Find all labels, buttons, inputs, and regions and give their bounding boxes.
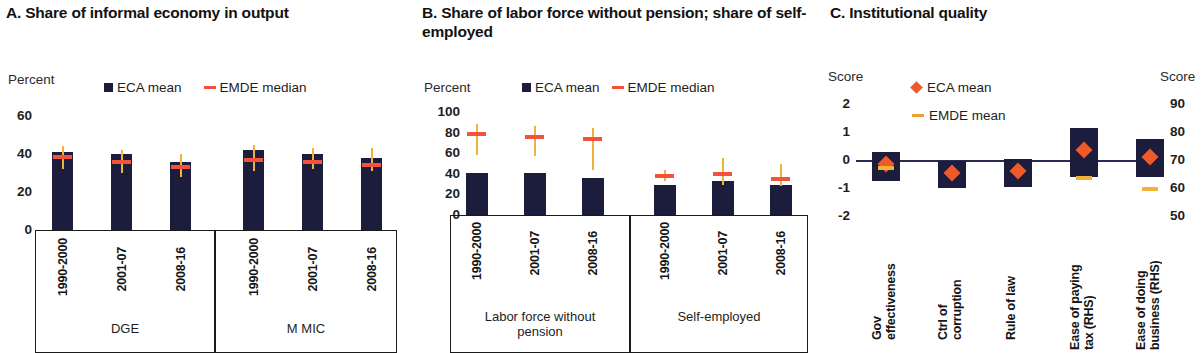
panel-a-ytick-60: 60 (0, 108, 32, 123)
panel-b-group-label-1: Labor force without pension (452, 310, 628, 340)
panel-c-ytick-left-0: 0 (820, 152, 850, 167)
panel-b-ytick-40: 40 (414, 166, 460, 181)
legend-item-eca-mean: ECA mean (912, 80, 1006, 95)
legend-label-eca-mean: ECA mean (927, 80, 992, 95)
panel-a-axis-unit: Percent (8, 72, 55, 87)
panel-c-ytick-right-80: 80 (1170, 124, 1204, 139)
bar-b-1 (466, 173, 488, 215)
panel-a-ytick-0: 0 (0, 222, 32, 237)
median-b-1 (467, 132, 486, 136)
panel-b-ytick-80: 80 (414, 125, 460, 140)
panel-c-ytick-left-neg1: -1 (820, 180, 850, 195)
whisker-a-6 (371, 148, 373, 171)
bar-b-5 (712, 181, 734, 215)
median-a-1 (53, 155, 72, 159)
panel-c-ytick-left-2: 2 (820, 96, 850, 111)
panel-c: C. Institutional quality Score Score ECA… (820, 0, 1204, 353)
median-b-5 (713, 172, 732, 176)
panel-b-ytick-20: 20 (414, 186, 460, 201)
panel-a-xtick-6: 2008-16 (365, 247, 379, 291)
panel-b-group-label-2: Self-employed (631, 310, 807, 325)
median-b-4 (655, 174, 674, 178)
panel-c-legend: ECA mean EMDE mean (912, 80, 1006, 123)
diamond-marker-icon (910, 81, 923, 94)
dash-marker-icon (612, 86, 624, 89)
panel-a-xtick-4: 1990-2000 (247, 238, 261, 296)
panel-c-ytick-right-50: 50 (1170, 208, 1204, 223)
panel-b-ytick-100: 100 (414, 104, 460, 119)
panel-b-ytick-60: 60 (414, 145, 460, 160)
panel-c-axis-unit-left: Score (828, 69, 863, 84)
whisker-b-2 (534, 126, 536, 156)
panel-a-xtick-1: 1990-2000 (56, 238, 70, 296)
legend-item-emde-median: EMDE median (612, 80, 715, 95)
whisker-b-6 (780, 164, 782, 187)
panel-b-xtick-3: 2008-16 (586, 231, 600, 275)
panel-a: A. Share of informal economy in output P… (0, 0, 400, 353)
panel-a-xtick-3: 2008-16 (174, 247, 188, 291)
panel-b-xtick-4: 1990-2000 (658, 222, 672, 280)
legend-label-eca-mean: ECA mean (535, 80, 600, 95)
panel-c-xtick-3: Rule of law (1004, 230, 1018, 340)
dash-marker-icon (912, 114, 924, 117)
median-b-6 (771, 177, 790, 181)
panel-c-ytick-right-60: 60 (1170, 180, 1204, 195)
bar-b-2 (524, 173, 546, 215)
panel-c-title: C. Institutional quality (830, 4, 1200, 23)
panel-c-ytick-right-90: 90 (1170, 96, 1204, 111)
panel-a-group-label-1: DGE (36, 322, 214, 337)
panel-a-ytick-40: 40 (0, 146, 32, 161)
panel-c-xtick-5: Ease of doing business (RHS) (1134, 230, 1162, 350)
legend-item-eca-mean: ECA mean (522, 80, 600, 95)
panel-a-xtick-5: 2001-07 (306, 247, 320, 291)
panel-c-xtick-2: Ctrl of corruption (936, 230, 964, 340)
median-a-2 (112, 160, 131, 164)
panel-b-xtick-2: 2001-07 (528, 231, 542, 275)
legend-label-emde-median: EMDE median (628, 80, 715, 95)
panel-a-xtick-2: 2001-07 (115, 247, 129, 291)
legend-label-emde-mean: EMDE mean (929, 108, 1006, 123)
legend-item-emde-median: EMDE median (204, 80, 307, 95)
panel-b-group-divider (629, 215, 631, 353)
panel-b-xtick-1: 1990-2000 (470, 222, 484, 280)
panel-b-title: B. Share of labor force without pension;… (422, 4, 822, 42)
panel-a-group-label-2: M MIC (216, 322, 396, 337)
square-marker-icon (522, 83, 531, 92)
panel-b-xtick-5: 2001-07 (716, 231, 730, 275)
median-a-4 (244, 158, 263, 162)
panel-b: B. Share of labor force without pension;… (400, 0, 820, 353)
dash-marker-icon (204, 86, 216, 89)
emde-dash-c-1 (878, 166, 894, 170)
legend-label-emde-median: EMDE median (220, 80, 307, 95)
bar-b-3 (582, 178, 604, 215)
legend-label-eca-mean: ECA mean (117, 80, 182, 95)
emde-dash-c-5 (1142, 187, 1158, 191)
median-a-5 (303, 160, 322, 164)
panel-c-xtick-4: Ease of paying tax (RHS) (1068, 230, 1096, 350)
figure-panels: A. Share of informal economy in output P… (0, 0, 1204, 353)
panel-b-xtick-6: 2008-16 (774, 231, 788, 275)
bar-b-4 (654, 185, 676, 215)
median-b-2 (525, 135, 544, 139)
panel-b-axis-unit: Percent (424, 80, 471, 95)
legend-item-emde-mean: EMDE mean (912, 108, 1006, 123)
panel-c-ytick-right-70: 70 (1170, 152, 1204, 167)
panel-c-ytick-left-neg2: -2 (820, 208, 850, 223)
whisker-b-1 (476, 124, 478, 155)
panel-a-title: A. Share of informal economy in output (6, 4, 396, 23)
median-a-6 (362, 163, 381, 167)
median-a-3 (171, 165, 190, 169)
panel-c-ytick-left-1: 1 (820, 124, 850, 139)
median-b-3 (583, 137, 602, 141)
bar-b-6 (770, 185, 792, 215)
whisker-b-3 (592, 128, 594, 170)
legend-item-eca-mean: ECA mean (104, 80, 182, 95)
panel-c-axis-unit-right: Score (1160, 69, 1195, 84)
panel-a-legend: ECA mean EMDE median (104, 80, 307, 95)
panel-a-ytick-20: 20 (0, 184, 32, 199)
emde-dash-c-4 (1076, 176, 1092, 180)
panel-c-xtick-1: Gov effectiveness (870, 230, 898, 340)
square-marker-icon (104, 83, 113, 92)
panel-b-legend: ECA mean EMDE median (522, 80, 715, 95)
